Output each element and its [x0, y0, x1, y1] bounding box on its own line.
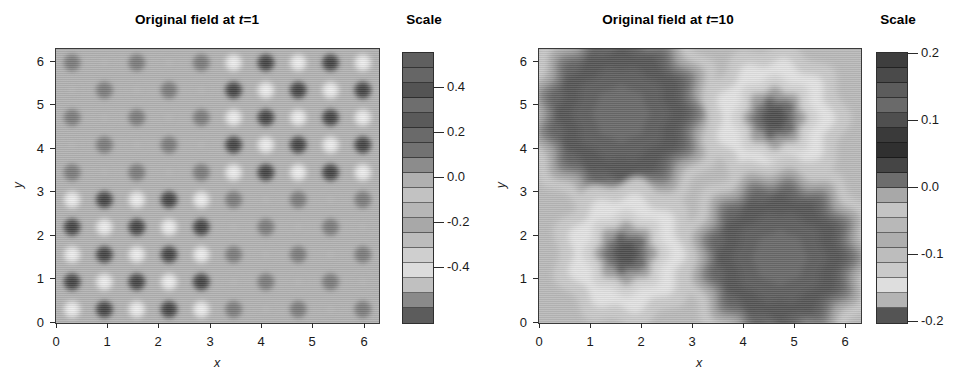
colorbar-band [403, 53, 433, 68]
panel-left-title: Original field at t=1 [0, 12, 436, 27]
ytick-label: 2 [18, 228, 44, 243]
cbtick-label: 0.0 [921, 179, 939, 194]
colorbar-band [877, 293, 907, 308]
xtick-label: 3 [678, 334, 706, 349]
ytick-label: 1 [501, 271, 527, 286]
ytick-label: 0 [501, 315, 527, 330]
colorbar-band [877, 218, 907, 233]
colorbar-band [877, 203, 907, 218]
xtick-label: 6 [350, 334, 378, 349]
cbtick-label: -0.1 [921, 246, 943, 261]
xtick-label: 6 [831, 334, 859, 349]
y-axis-title-right: y [494, 165, 508, 205]
panel-right-title: Original field at t=10 [430, 12, 906, 27]
colorbar-band [877, 233, 907, 248]
colorbar-band [877, 263, 907, 278]
y-axis-title-left: y [11, 165, 25, 205]
xtick-label: 1 [93, 334, 121, 349]
field-heatmap-right [539, 49, 861, 323]
colorbar-band [877, 98, 907, 113]
x-axis-title-right: x [685, 356, 713, 370]
colorbar-band [403, 83, 433, 98]
colorbar-band [403, 203, 433, 218]
colorbar-band [877, 248, 907, 263]
colorbar-group-left: Scale 0.4 0.2 0.0 -0.2 -0.4 [398, 0, 478, 386]
ytick-label: 0 [18, 315, 44, 330]
colorbar-band [403, 113, 433, 128]
cbtick-label: -0.2 [447, 214, 469, 229]
colorbar-band [403, 143, 433, 158]
xtick-label: 1 [576, 334, 604, 349]
xtick-label: 2 [144, 334, 172, 349]
colorbar-band [403, 158, 433, 173]
ytick-label: 4 [18, 141, 44, 156]
scale-title-right: Scale [872, 12, 924, 27]
ytick-label: 6 [18, 54, 44, 69]
x-axis-title-left: x [203, 356, 231, 370]
colorbar-band [877, 68, 907, 83]
plot-area-left [55, 48, 380, 324]
ytick-label: 5 [501, 97, 527, 112]
xtick-label: 3 [196, 334, 224, 349]
colorbar-band [403, 278, 433, 293]
figure-root: Original field at t=1 0 [0, 0, 954, 386]
colorbar-band [403, 128, 433, 143]
colorbar-band [877, 83, 907, 98]
colorbar-band [403, 188, 433, 203]
colorbar-band [403, 308, 433, 323]
colorbar-band [403, 98, 433, 113]
colorbar-band [403, 263, 433, 278]
colorbar-band [403, 218, 433, 233]
xtick-label: 5 [780, 334, 808, 349]
xtick-label: 2 [627, 334, 655, 349]
colorbar-band [403, 233, 433, 248]
colorbar-band [403, 293, 433, 308]
xtick-label: 4 [247, 334, 275, 349]
ytick-label: 5 [18, 97, 44, 112]
colorbar-band [877, 158, 907, 173]
cbtick-label: 0.4 [447, 79, 465, 94]
ytick-label: 4 [501, 141, 527, 156]
cbtick-label: 0.2 [921, 45, 939, 60]
colorbar-band [403, 173, 433, 188]
colorbar-band [403, 248, 433, 263]
cbtick-label: -0.4 [447, 259, 469, 274]
cbtick-label: 0.1 [921, 112, 939, 127]
colorbar-band [403, 68, 433, 83]
ytick-label: 1 [18, 271, 44, 286]
ytick-label: 6 [501, 54, 527, 69]
field-heatmap-left [56, 49, 379, 323]
colorbar-band [877, 173, 907, 188]
cbtick-label: 0.0 [447, 169, 465, 184]
xtick-label: 0 [42, 334, 70, 349]
colorbar-band [877, 143, 907, 158]
colorbar-band [877, 113, 907, 128]
cbtick-label: -0.2 [921, 313, 943, 328]
colorbar-band [877, 308, 907, 323]
colorbar-band [877, 188, 907, 203]
xtick-label: 5 [298, 334, 326, 349]
colorbar-group-right: Scale 0.2 0.1 0.0 -0.1 -0.2 [872, 0, 954, 386]
cbtick-label: 0.2 [447, 124, 465, 139]
colorbar-left [402, 52, 434, 324]
colorbar-band [877, 53, 907, 68]
plot-area-right [538, 48, 862, 324]
colorbar-right [876, 52, 908, 324]
ytick-label: 2 [501, 228, 527, 243]
xtick-label: 0 [525, 334, 553, 349]
colorbar-band [877, 278, 907, 293]
xtick-label: 4 [729, 334, 757, 349]
colorbar-band [877, 128, 907, 143]
